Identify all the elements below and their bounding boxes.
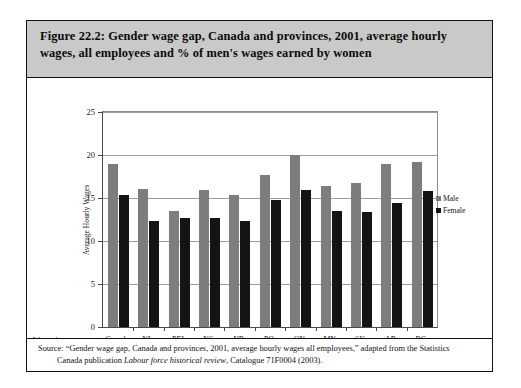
x-axis-tick — [407, 327, 408, 331]
x-axis-tick — [224, 327, 225, 331]
source-note: Source: “Gender wage gap, Canada and pro… — [27, 338, 492, 371]
bar-male — [260, 175, 270, 327]
legend-item: Male — [436, 194, 488, 203]
chart-legend: MaleFemale — [436, 194, 488, 218]
bar-male — [290, 155, 300, 327]
caption-line-1: Figure 22.2: Gender wage gap, Canada and… — [40, 28, 479, 45]
caption-line-2: wages, all employees and % of men's wage… — [40, 45, 479, 62]
y-axis-tick-label: 0 — [91, 322, 95, 332]
bar-female — [423, 191, 433, 327]
bar-male — [321, 186, 331, 327]
source-line-2: Canada publication Labour force historic… — [38, 355, 481, 367]
bar-group — [412, 112, 436, 327]
source-line-2-text-b: , Catalogue 71F0004 (2003). — [226, 356, 323, 365]
bar-female — [240, 221, 250, 327]
bar-group — [199, 112, 223, 327]
bar-female — [362, 212, 372, 327]
source-line-2-text-a: Canada publication — [57, 356, 124, 365]
x-axis-tick — [255, 327, 256, 331]
legend-label: Female — [443, 206, 465, 215]
bar-female — [332, 211, 342, 327]
plot-frame: Average Hourly Wages 0510152025 — [102, 111, 438, 328]
y-axis-tick-label: 15 — [87, 193, 96, 203]
bar-male — [229, 195, 239, 327]
y-axis-tick-label: 10 — [87, 236, 96, 246]
y-axis-tick-label: 25 — [87, 107, 96, 117]
bar-series-container — [103, 112, 437, 327]
bar-male — [169, 211, 179, 327]
bar-group — [229, 112, 253, 327]
bar-group — [108, 112, 132, 327]
legend-swatch — [436, 196, 441, 201]
bar-male — [199, 190, 209, 327]
bar-female — [271, 200, 281, 327]
bar-male — [381, 164, 391, 327]
legend-swatch — [436, 208, 441, 213]
bar-male — [412, 162, 422, 327]
bar-female — [392, 203, 402, 327]
bar-group — [321, 112, 345, 327]
bar-group — [290, 112, 314, 327]
x-axis-tick — [376, 327, 377, 331]
legend-item: Female — [436, 206, 488, 215]
bar-group — [169, 112, 193, 327]
bar-group — [138, 112, 162, 327]
bar-group — [351, 112, 375, 327]
bar-male — [138, 189, 148, 327]
bar-female — [301, 190, 311, 327]
bar-female — [210, 218, 220, 327]
y-axis-tick-label: 5 — [91, 279, 95, 289]
x-axis-tick — [194, 327, 195, 331]
bar-male — [108, 164, 118, 327]
x-axis-tick — [316, 327, 317, 331]
figure-caption: Figure 22.2: Gender wage gap, Canada and… — [27, 21, 492, 78]
x-axis-tick — [346, 327, 347, 331]
bar-female — [180, 218, 190, 327]
x-axis-tick — [285, 327, 286, 331]
bar-female — [149, 221, 159, 327]
x-axis-tick — [164, 327, 165, 331]
bar-male — [351, 183, 361, 327]
figure-container: Figure 22.2: Gender wage gap, Canada and… — [26, 20, 493, 372]
x-axis-tick — [133, 327, 134, 331]
bar-group — [381, 112, 405, 327]
y-axis-tick-label: 20 — [87, 150, 96, 160]
source-publication-title: Labour force historical review — [124, 356, 226, 365]
legend-label: Male — [443, 194, 459, 203]
source-line-1: Source: “Gender wage gap, Canada and pro… — [38, 343, 481, 355]
bar-group — [260, 112, 284, 327]
chart-area: Women's wages as a percentage of men's A… — [27, 78, 492, 340]
bar-female — [119, 195, 129, 327]
